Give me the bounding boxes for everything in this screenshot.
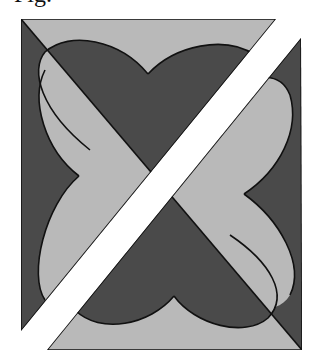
x-hearts-figure — [0, 0, 322, 353]
